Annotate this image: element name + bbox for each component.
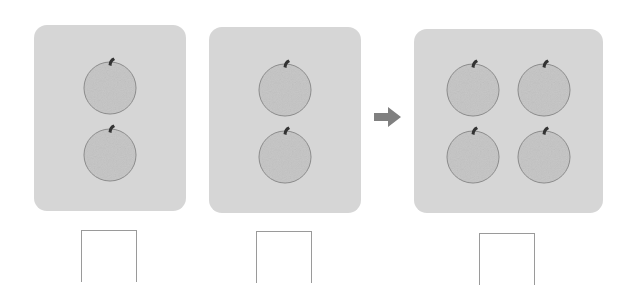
apple-icon [444,124,502,184]
group-1-panel [34,25,186,211]
apple-icon [256,124,314,184]
answer-box-total[interactable] [479,233,535,285]
apple-icon [515,124,573,184]
apple-icon [444,57,502,117]
answer-box-group-2[interactable] [256,231,312,283]
apple-icon [256,57,314,117]
apple-icon [515,57,573,117]
apple-icon [81,55,139,115]
right-arrow-icon [374,106,402,128]
answer-box-group-1[interactable] [81,230,137,282]
apple-icon [81,122,139,182]
total-panel [414,29,603,213]
group-2-panel [209,27,361,213]
